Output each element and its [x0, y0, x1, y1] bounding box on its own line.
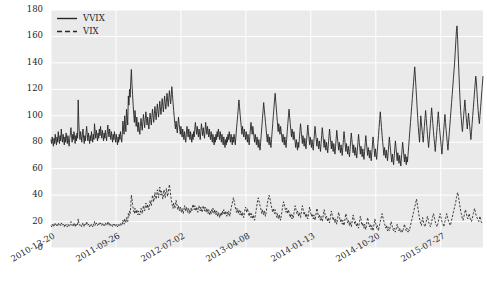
y-tick-label: 40	[3, 190, 43, 199]
legend-item-vix: VIX	[56, 25, 130, 38]
legend-label-vix: VIX	[83, 27, 99, 36]
legend-label-vvix: VVIX	[83, 14, 105, 23]
chart-figure: 020406080100120140160180 2010-12-202011-…	[0, 0, 487, 292]
y-tick-label: 160	[3, 31, 43, 40]
legend-item-vvix: VVIX	[56, 12, 130, 25]
y-tick-label: 20	[3, 217, 43, 226]
y-tick-label: 180	[3, 5, 43, 14]
y-tick-label: 80	[3, 137, 43, 146]
chart-legend: VVIX VIX	[56, 12, 130, 40]
y-tick-label: 120	[3, 84, 43, 93]
legend-line-solid-icon	[56, 13, 78, 24]
legend-line-dashed-icon	[56, 26, 78, 37]
y-tick-label: 100	[3, 111, 43, 120]
y-tick-label: 140	[3, 58, 43, 67]
y-tick-label: 60	[3, 164, 43, 173]
